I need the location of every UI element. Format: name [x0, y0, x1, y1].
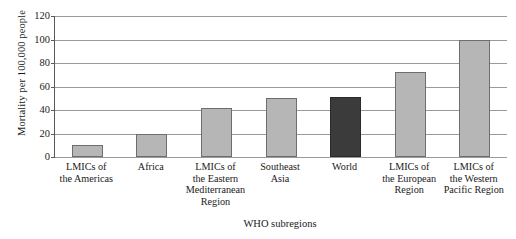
x-axis-category-label: Africa: [119, 161, 184, 213]
y-tick-label: 100: [24, 35, 50, 45]
x-axis-category-label: LMICs ofthe EuropeanRegion: [377, 161, 442, 213]
bar: [136, 134, 167, 158]
label-line: LMICs of: [184, 161, 247, 173]
x-axis-category-label: LMICs ofthe Americas: [54, 161, 119, 213]
x-axis-category-label: World: [312, 161, 377, 213]
bar: [459, 40, 490, 158]
bar-slot: [249, 16, 314, 157]
y-tick-label: 40: [24, 105, 50, 115]
label-line: Pacific Region: [442, 184, 505, 196]
label-line: LMICs of: [55, 161, 118, 173]
y-axis-tick-labels: 120 100 80 60 40 20 0: [22, 0, 50, 239]
y-tick-label: 120: [24, 11, 50, 21]
plot-area: [54, 16, 507, 158]
label-line: Southeast: [249, 161, 312, 173]
bar-slot: [55, 16, 120, 157]
bar-slot: [442, 16, 507, 157]
label-line: Asia: [249, 173, 312, 185]
label-line: LMICs of: [442, 161, 505, 173]
bar: [330, 97, 361, 157]
label-line: Africa: [120, 161, 183, 173]
label-line: Mediterranean: [184, 184, 247, 196]
bar: [72, 145, 103, 157]
bar: [395, 72, 426, 157]
bar-slot: [120, 16, 185, 157]
y-tick-label: 60: [24, 82, 50, 92]
x-axis-category-label: LMICs ofthe WesternPacific Region: [441, 161, 506, 213]
x-axis-category-label: SoutheastAsia: [248, 161, 313, 213]
bar-slot: [378, 16, 443, 157]
x-axis-category-label: LMICs ofthe EasternMediterraneanRegion: [183, 161, 248, 213]
label-line: the European: [378, 173, 441, 185]
label-line: Region: [184, 196, 247, 208]
y-tick-label: 0: [24, 152, 50, 162]
gridline: [55, 157, 507, 158]
label-line: Region: [378, 184, 441, 196]
bars-group: [55, 16, 507, 157]
label-line: the Eastern: [184, 173, 247, 185]
bar-chart-figure: Mortality per 100,000 people 120 100 80 …: [0, 0, 516, 239]
label-line: the Americas: [55, 173, 118, 185]
bar-slot: [184, 16, 249, 157]
y-axis-tick-mark: [51, 157, 55, 158]
y-tick-label: 80: [24, 58, 50, 68]
label-line: LMICs of: [378, 161, 441, 173]
label-line: the Western: [442, 173, 505, 185]
bar: [201, 108, 232, 157]
bar: [266, 98, 297, 157]
label-line: World: [313, 161, 376, 173]
x-axis-category-labels: LMICs ofthe AmericasAfricaLMICs ofthe Ea…: [54, 161, 506, 213]
bar-slot: [313, 16, 378, 157]
y-tick-label: 20: [24, 129, 50, 139]
x-axis-title: WHO subregions: [54, 218, 506, 229]
